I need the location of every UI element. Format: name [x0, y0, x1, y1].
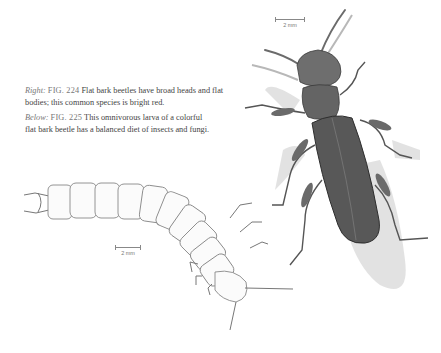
- scale-bar-line: [115, 247, 141, 248]
- scale-bar-line: [275, 19, 305, 20]
- scale-bar-beetle: 2 mm: [275, 19, 305, 28]
- beetle-illustration: [245, 10, 428, 289]
- scale-bar-larva: 2 mm: [115, 247, 141, 256]
- illustrations: [0, 0, 441, 353]
- scale-bar-label: 2 mm: [115, 250, 141, 256]
- larva-illustration: [24, 183, 293, 330]
- scale-bar-label: 2 mm: [275, 22, 305, 28]
